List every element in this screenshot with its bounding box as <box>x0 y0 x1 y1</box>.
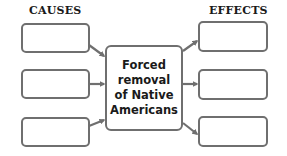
arrow-center-to-effect-1 <box>183 41 197 51</box>
arrow-cause-3-to-center <box>89 120 104 126</box>
arrow-center-to-effect-3 <box>183 123 197 134</box>
arrow-cause-1-to-center <box>89 45 104 56</box>
connector-arrows <box>0 0 287 156</box>
